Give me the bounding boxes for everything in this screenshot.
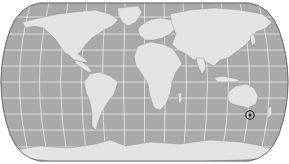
world-map-svg xyxy=(0,0,289,164)
world-map xyxy=(0,0,289,164)
